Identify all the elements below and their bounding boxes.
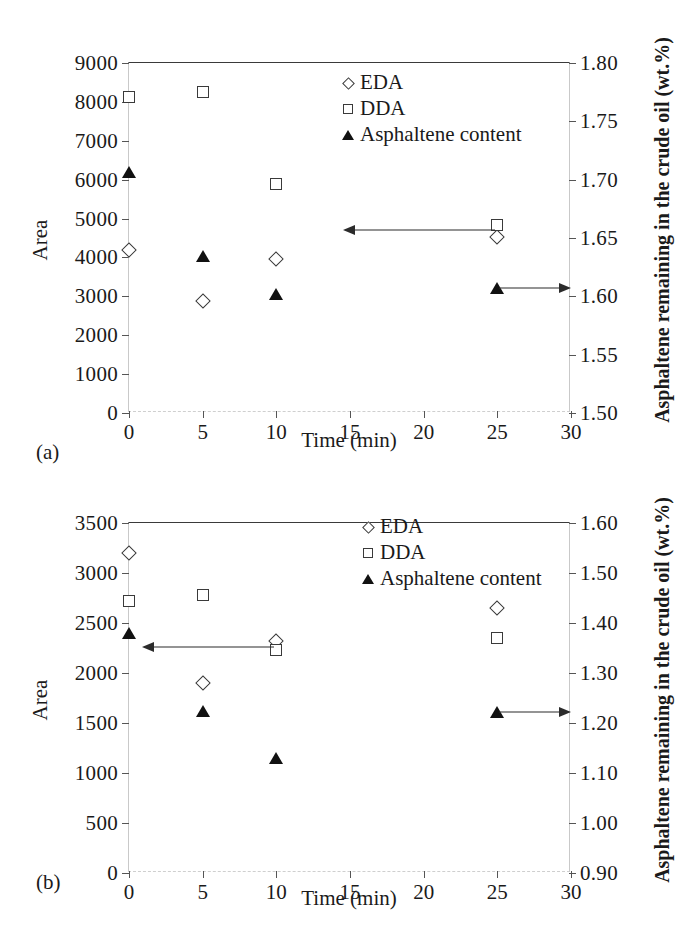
- chart-legend: EDADDAAsphaltene content: [360, 514, 542, 592]
- data-point-square: [197, 589, 209, 601]
- y2-axis-tick-label: 1.80: [580, 51, 618, 76]
- y-axis-tick: [122, 219, 129, 220]
- y-axis-tick-label: 2500: [75, 611, 118, 636]
- y-axis-tick-label: 0: [107, 861, 118, 886]
- data-point-triangle: [269, 288, 283, 300]
- y2-axis-tick: [569, 296, 576, 297]
- data-point-square: [491, 632, 503, 644]
- y-axis-tick: [122, 523, 129, 524]
- x-axis-tick-label: 20: [413, 880, 434, 905]
- x-axis-tick: [129, 411, 130, 418]
- x-axis-tick-label: 30: [561, 420, 582, 445]
- legend-label: EDA: [380, 515, 423, 539]
- y-axis-title: Area: [28, 680, 53, 721]
- y2-axis-tick: [569, 355, 576, 356]
- x-axis-tick: [424, 871, 425, 878]
- legend-item: Asphaltene content: [360, 566, 542, 592]
- triangle-icon: [342, 130, 354, 140]
- y-axis-tick-label: 0: [107, 401, 118, 426]
- panel-caption-b: (b): [36, 870, 61, 895]
- legend-item: Asphaltene content: [340, 122, 522, 148]
- y2-axis-title: Asphaltene remaining in the crude oil (w…: [651, 497, 674, 883]
- y-axis-tick-label: 1000: [75, 362, 118, 387]
- x-axis-tick: [571, 411, 572, 418]
- y-axis-title: Area: [28, 220, 53, 261]
- data-point-diamond: [195, 675, 211, 691]
- y-axis-tick-label: 1000: [75, 761, 118, 786]
- data-point-diamond: [269, 251, 285, 267]
- y2-axis-tick-label: 1.60: [580, 284, 618, 309]
- x-axis-tick: [350, 871, 351, 878]
- data-point-diamond: [490, 600, 506, 616]
- x-axis-tick: [276, 871, 277, 878]
- y-axis-tick: [122, 723, 129, 724]
- legend-label: Asphaltene content: [360, 123, 522, 147]
- legend-swatch: [340, 79, 356, 88]
- y2-axis-tick: [569, 773, 576, 774]
- data-point-triangle: [269, 752, 283, 764]
- x-axis-tick: [276, 411, 277, 418]
- data-point-diamond: [121, 242, 137, 258]
- y2-axis-tick-label: 1.50: [580, 561, 618, 586]
- y-axis-tick-label: 6000: [75, 167, 118, 192]
- y-axis-tick: [122, 673, 129, 674]
- y-axis-tick-label: 8000: [75, 89, 118, 114]
- diamond-icon: [342, 77, 355, 90]
- x-axis-tick-label: 20: [413, 420, 434, 445]
- x-axis-tick-label: 0: [124, 880, 135, 905]
- y2-axis-tick: [569, 238, 576, 239]
- legend-swatch: [360, 548, 376, 558]
- y2-axis-tick: [569, 573, 576, 574]
- x-axis-tick: [497, 871, 498, 878]
- x-axis-tick: [424, 411, 425, 418]
- legend-label: DDA: [380, 541, 426, 565]
- data-point-square: [270, 178, 282, 190]
- y2-axis-tick-label: 1.55: [580, 342, 618, 367]
- y-axis-tick: [122, 63, 129, 64]
- legend-swatch: [360, 523, 376, 532]
- x-axis-tick-label: 10: [266, 420, 287, 445]
- y2-axis-tick-label: 1.40: [580, 611, 618, 636]
- y-axis-tick-label: 3500: [75, 511, 118, 536]
- diamond-icon: [362, 521, 375, 534]
- data-point-square: [197, 86, 209, 98]
- y-axis-tick: [122, 374, 129, 375]
- y2-axis-tick-label: 0.90: [580, 861, 618, 886]
- y-axis-tick-label: 500: [86, 811, 118, 836]
- figure-panel-a: 01000200030004000500060007000800090001.5…: [0, 0, 691, 468]
- y-axis-tick-label: 7000: [75, 128, 118, 153]
- annotation-arrow-line-left: [354, 230, 496, 231]
- figure-panel-b: 05001000150020002500300035000.901.001.10…: [0, 462, 691, 930]
- legend-item: EDA: [360, 514, 542, 540]
- data-point-triangle: [122, 627, 136, 639]
- annotation-arrow-line-left: [153, 646, 274, 647]
- y-axis-tick: [122, 623, 129, 624]
- y-axis-tick-label: 3000: [75, 561, 118, 586]
- y-axis-tick-label: 4000: [75, 245, 118, 270]
- y-axis-tick-label: 9000: [75, 51, 118, 76]
- legend-item: EDA: [340, 70, 522, 96]
- x-axis-tick: [350, 411, 351, 418]
- square-icon: [363, 548, 373, 558]
- y-axis-tick: [122, 573, 129, 574]
- y2-axis-tick-label: 1.10: [580, 761, 618, 786]
- y2-axis-tick-label: 1.50: [580, 401, 618, 426]
- y2-axis-tick: [569, 623, 576, 624]
- annotation-arrow-line-right: [499, 288, 561, 289]
- y-axis-tick: [122, 180, 129, 181]
- legend-item: DDA: [360, 540, 542, 566]
- data-point-triangle: [196, 705, 210, 717]
- legend-swatch: [340, 104, 356, 114]
- x-axis-tick-label: 25: [487, 420, 508, 445]
- x-axis-tick: [203, 871, 204, 878]
- y2-axis-tick-label: 1.30: [580, 661, 618, 686]
- triangle-icon: [362, 574, 374, 584]
- y-axis-tick: [122, 773, 129, 774]
- x-axis-tick: [571, 871, 572, 878]
- y-axis-tick: [122, 413, 129, 414]
- chart-legend: EDADDAAsphaltene content: [340, 70, 522, 148]
- y-axis-tick: [122, 296, 129, 297]
- y2-axis-tick: [569, 121, 576, 122]
- y-axis-tick-label: 2000: [75, 661, 118, 686]
- y2-axis-tick: [569, 673, 576, 674]
